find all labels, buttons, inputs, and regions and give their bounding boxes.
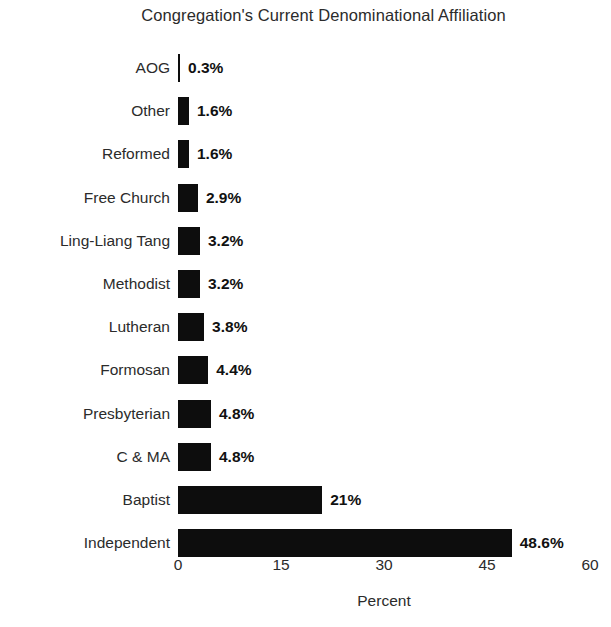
category-label: Baptist: [123, 486, 170, 514]
x-axis: 015304560: [0, 556, 611, 586]
x-axis-tick-label: 30: [375, 556, 392, 574]
bar-value-label: 3.2%: [208, 270, 243, 298]
bar-row: Methodist3.2%: [0, 270, 611, 298]
bar-row: Reformed1.6%: [0, 140, 611, 168]
category-label: Formosan: [100, 356, 170, 384]
chart-title: Congregation's Current Denominational Af…: [0, 6, 611, 25]
bar-row: Formosan4.4%: [0, 356, 611, 384]
bar-value-label: 48.6%: [520, 529, 564, 557]
x-axis-title: Percent: [178, 592, 590, 610]
bar-value-label: 3.2%: [208, 227, 243, 255]
bar-row: Lutheran3.8%: [0, 313, 611, 341]
bar: [178, 443, 211, 471]
category-label: Free Church: [84, 184, 170, 212]
bar-value-label: 1.6%: [197, 140, 232, 168]
category-label: Reformed: [102, 140, 170, 168]
bar-value-label: 1.6%: [197, 97, 232, 125]
x-axis-tick-label: 0: [174, 556, 183, 574]
category-label: AOG: [136, 54, 170, 82]
bar-value-label: 0.3%: [188, 54, 223, 82]
bar-row: AOG0.3%: [0, 54, 611, 82]
x-axis-tick-label: 15: [272, 556, 289, 574]
bar-row: Free Church2.9%: [0, 184, 611, 212]
bar-row: Presbyterian4.8%: [0, 400, 611, 428]
bar: [178, 529, 512, 557]
bar-value-label: 4.8%: [219, 443, 254, 471]
category-label: Lutheran: [109, 313, 170, 341]
plot-area: AOG0.3%Other1.6%Reformed1.6%Free Church2…: [0, 40, 611, 550]
category-label: Ling-Liang Tang: [60, 227, 170, 255]
bar-value-label: 21%: [330, 486, 361, 514]
bar-value-label: 4.8%: [219, 400, 254, 428]
bar-value-label: 2.9%: [206, 184, 241, 212]
category-label: C & MA: [117, 443, 170, 471]
category-label: Other: [131, 97, 170, 125]
bar: [178, 140, 189, 168]
bar: [178, 97, 189, 125]
bar-row: Other1.6%: [0, 97, 611, 125]
category-label: Presbyterian: [83, 400, 170, 428]
bar: [178, 356, 208, 384]
bar-value-label: 4.4%: [216, 356, 251, 384]
bar-row: Independent48.6%: [0, 529, 611, 557]
category-label: Methodist: [103, 270, 170, 298]
bar-row: Ling-Liang Tang3.2%: [0, 227, 611, 255]
bar: [178, 184, 198, 212]
bar: [178, 400, 211, 428]
bar-row: C & MA4.8%: [0, 443, 611, 471]
category-label: Independent: [84, 529, 170, 557]
bar: [178, 486, 322, 514]
bar: [178, 227, 200, 255]
x-axis-tick-label: 45: [478, 556, 495, 574]
bar-value-label: 3.8%: [212, 313, 247, 341]
bar: [178, 54, 180, 82]
bar: [178, 313, 204, 341]
x-axis-tick-label: 60: [581, 556, 598, 574]
bar-row: Baptist21%: [0, 486, 611, 514]
bar: [178, 270, 200, 298]
bar-chart: Congregation's Current Denominational Af…: [0, 0, 611, 627]
